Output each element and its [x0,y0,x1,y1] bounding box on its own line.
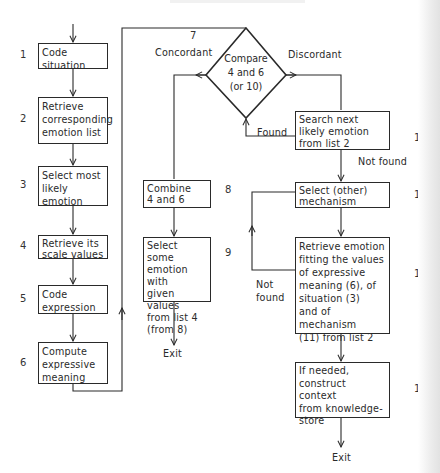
decision-compare-text: Compare 4 and 6 (or 10) [211,52,281,94]
label-discordant: Discordant [288,48,342,61]
step-number-4: 4 [20,240,26,251]
label-concordant: Concordant [155,46,212,59]
step-box-retrieve-emotion-list: Retrieve corresponding emotion list [38,97,108,144]
step-number-9: 9 [225,247,231,258]
step-number-5: 5 [20,293,26,304]
label-exit-left: Exit [163,347,182,360]
step-number-2: 2 [20,113,26,124]
label-exit-right: Exit [332,451,351,464]
step-box-retrieve-fitting-emotion: Retrieve emotion fitting the values of e… [295,237,390,334]
step-box-construct-context: If needed, construct context from knowle… [295,362,390,418]
discordant-path [286,75,341,110]
step-number-1: 1 [20,49,26,60]
step-box-code-expression: Code expression [38,285,108,314]
step-box-select-some-emotion: Select some emotion with given values fr… [143,237,211,302]
step-box-retrieve-scale-values: Retrieve its scale values [38,235,108,259]
step-box-select-likely-emotion: Select most likely emotion [38,166,108,206]
concordant-path [174,75,206,179]
label-not-found-10: Not found [358,155,407,168]
step-box-combine: Combine 4 and 6 [143,180,211,208]
step-box-select-mechanism: Select (other) mechanism [295,182,390,208]
label-found: Found [257,126,287,139]
step-number-8: 8 [225,184,231,195]
step-box-code-situation: Code situation [38,43,108,69]
step-box-compute-expressive-meaning: Compute expressive meaning [38,342,108,384]
page-edge-shadow [418,0,440,473]
step-number-3: 3 [20,179,26,190]
not-found-loop [252,192,295,270]
step-number-6: 6 [20,357,26,368]
label-not-found-12: Not found [256,278,285,304]
step-box-search-next-emotion: Search next likely emotion from list 2 [295,111,390,150]
step-number-7: 7 [190,30,196,41]
